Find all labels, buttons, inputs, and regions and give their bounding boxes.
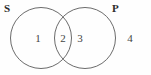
region-number-4: 4 [123, 33, 137, 44]
region-number-3: 3 [73, 33, 87, 44]
set-label-p: P [112, 3, 119, 14]
region-number-1: 1 [31, 33, 45, 44]
venn-diagram: S P 1 2 3 4 [0, 0, 151, 75]
region-number-2: 2 [56, 33, 70, 44]
set-label-s: S [4, 3, 10, 14]
